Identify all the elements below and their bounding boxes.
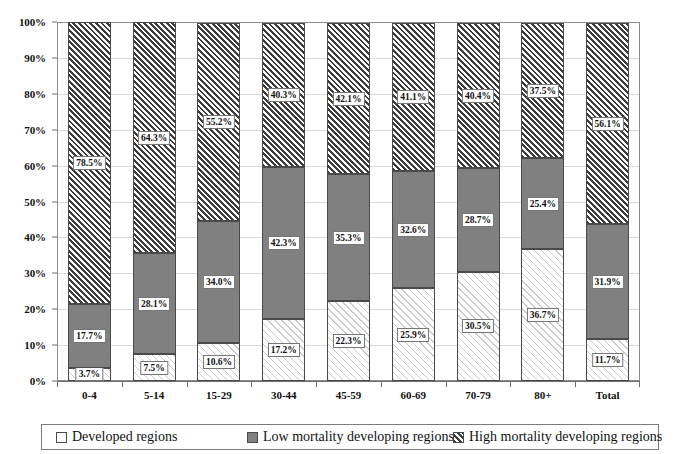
segment-value-label: 3.7% [76,367,103,381]
y-axis: 0%10%20%30%40%50%60%70%80%90%100% [0,22,52,381]
x-tick-label: 80+ [534,389,551,401]
segment-high-mortality[interactable]: 42.1% [327,23,370,174]
segment-high-mortality[interactable]: 40.4% [457,23,500,168]
segment-value-label: 17.7% [73,329,105,343]
segment-value-label: 40.3% [268,88,300,102]
segment-high-mortality[interactable]: 41.1% [392,23,435,171]
segment-high-mortality[interactable]: 55.2% [197,23,240,221]
x-tick-label: 60-69 [400,389,426,401]
segment-developed[interactable]: 25.9% [392,288,435,381]
segment-value-label: 42.3% [268,236,300,250]
segment-low-mortality[interactable]: 28.7% [457,168,500,271]
segment-value-label: 40.4% [462,89,494,103]
x-tick-label: 15-29 [206,389,232,401]
legend-item-developed-regions: Developed regions [56,429,177,445]
segment-high-mortality[interactable]: 40.3% [262,23,305,168]
segment-developed[interactable]: 22.3% [327,301,370,381]
x-tick-label: 70-79 [465,389,491,401]
segment-value-label: 22.3% [332,334,364,348]
bar-stack: 17.2%42.3%40.3% [262,22,305,381]
legend-label-low-mortality: Low mortality developing regions [263,429,454,445]
bar-stack: 11.7%31.9%56.1% [586,22,629,381]
segment-low-mortality[interactable]: 31.9% [586,224,629,339]
y-tick-label: 70% [24,124,46,136]
bar-group[interactable]: 30.5%28.7%40.4% [457,22,500,381]
bar-stack: 30.5%28.7%40.4% [457,22,500,381]
y-tick-label: 80% [24,88,46,100]
segment-developed[interactable]: 30.5% [457,272,500,381]
bar-group[interactable]: 3.7%17.7%78.5% [68,22,111,381]
segment-value-label: 42.1% [332,92,364,106]
segment-high-mortality[interactable]: 37.5% [521,23,564,158]
bar-group[interactable]: 7.5%28.1%64.3% [133,22,176,381]
y-tick-label: 60% [24,160,46,172]
segment-value-label: 32.6% [397,223,429,237]
segment-high-mortality[interactable]: 56.1% [586,23,629,224]
segment-low-mortality[interactable]: 32.6% [392,171,435,288]
segment-developed[interactable]: 36.7% [521,249,564,381]
y-tick-label: 10% [24,339,46,351]
legend-item-high-mortality-developing-regions: High mortality developing regions [453,429,662,445]
segment-developed[interactable]: 11.7% [586,339,629,381]
bar-group[interactable]: 36.7%25.4%37.5% [521,22,564,381]
bar-stack: 10.6%34.0%55.2% [197,22,240,381]
segment-low-mortality[interactable]: 28.1% [133,253,176,354]
x-tick-mark [187,381,188,387]
swatch-developed-icon [56,432,67,443]
x-tick-label: 0-4 [82,389,97,401]
bar-group[interactable]: 11.7%31.9%56.1% [586,22,629,381]
x-tick-mark [57,381,58,387]
segment-high-mortality[interactable]: 64.3% [133,22,176,253]
x-tick-mark [251,381,252,387]
swatch-low-mortality-icon [247,432,258,443]
segment-value-label: 35.3% [332,231,364,245]
segment-value-label: 36.7% [527,308,559,322]
legend: Developed regions Low mortality developi… [41,424,659,450]
bar-stack: 36.7%25.4%37.5% [521,22,564,381]
segment-developed[interactable]: 17.2% [262,319,305,381]
x-tick-mark [316,381,317,387]
segment-low-mortality[interactable]: 17.7% [68,304,111,368]
bar-stack: 22.3%35.3%42.1% [327,22,370,381]
y-tick-label: 30% [24,267,46,279]
bar-group[interactable]: 22.3%35.3%42.1% [327,22,370,381]
legend-item-low-mortality-developing-regions: Low mortality developing regions [247,429,454,445]
bar-group[interactable]: 17.2%42.3%40.3% [262,22,305,381]
x-tick-mark [510,381,511,387]
segment-developed[interactable]: 3.7% [68,368,111,381]
bar-group[interactable]: 10.6%34.0%55.2% [197,22,240,381]
segment-high-mortality[interactable]: 78.5% [68,22,111,304]
x-axis-labels: 0-45-1415-2930-4445-5960-6970-7980+Total [57,389,640,407]
x-tick-label: 45-59 [336,389,362,401]
bars-layer: 3.7%17.7%78.5%7.5%28.1%64.3%10.6%34.0%55… [57,22,640,381]
segment-value-label: 11.7% [592,353,624,367]
bar-stack: 3.7%17.7%78.5% [68,22,111,381]
legend-label-high-mortality: High mortality developing regions [469,429,662,445]
x-axis-ticks [57,381,640,388]
x-tick-mark [639,381,640,387]
segment-value-label: 28.1% [138,297,170,311]
y-tick-label: 0% [30,375,46,387]
bar-group[interactable]: 25.9%32.6%41.1% [392,22,435,381]
segment-low-mortality[interactable]: 34.0% [197,221,240,343]
stacked-bar-chart: 0%10%20%30%40%50%60%70%80%90%100% 3.7%17… [0,0,674,454]
segment-value-label: 64.3% [138,131,170,145]
segment-value-label: 31.9% [592,275,624,289]
segment-developed[interactable]: 10.6% [197,343,240,381]
x-tick-label: 30-44 [271,389,297,401]
x-tick-label: Total [596,389,620,401]
segment-value-label: 25.9% [397,328,429,342]
segment-low-mortality[interactable]: 42.3% [262,167,305,319]
segment-developed[interactable]: 7.5% [133,354,176,381]
segment-value-label: 10.6% [203,355,235,369]
y-tick-label: 40% [24,231,46,243]
segment-low-mortality[interactable]: 35.3% [327,174,370,301]
segment-value-label: 41.1% [397,90,429,104]
y-tick-label: 100% [19,16,46,28]
segment-low-mortality[interactable]: 25.4% [521,158,564,249]
segment-value-label: 28.7% [462,213,494,227]
y-tick-label: 20% [24,303,46,315]
bar-stack: 7.5%28.1%64.3% [133,22,176,381]
segment-value-label: 34.0% [203,275,235,289]
segment-value-label: 7.5% [140,361,167,375]
